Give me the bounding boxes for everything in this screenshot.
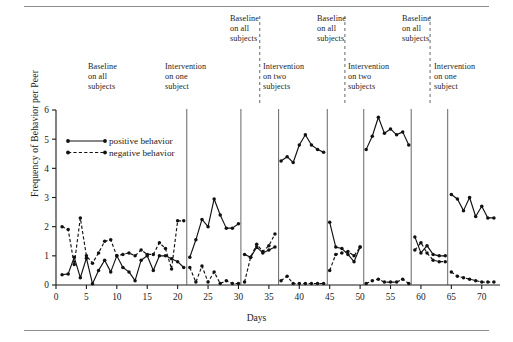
data-point (103, 240, 107, 244)
legend-label: positive behavior (109, 136, 173, 146)
x-tick-label: 55 (386, 292, 396, 302)
data-point (121, 253, 125, 257)
data-point (127, 270, 131, 274)
data-point (158, 254, 162, 257)
data-point (407, 143, 411, 147)
legend-marker (66, 139, 70, 143)
data-point (97, 269, 101, 273)
data-point (425, 244, 429, 248)
data-point (206, 225, 210, 229)
data-point (395, 280, 399, 284)
data-point (212, 270, 216, 274)
data-point (425, 251, 429, 255)
legend-marker (103, 139, 107, 143)
data-point (176, 219, 180, 223)
data-point (407, 282, 411, 286)
data-point (358, 245, 362, 249)
data-point (164, 247, 168, 251)
data-point (304, 133, 308, 137)
data-point (431, 253, 435, 257)
data-point (139, 248, 143, 252)
data-point (298, 282, 302, 286)
data-point (200, 264, 204, 268)
data-point (444, 260, 448, 264)
data-point (401, 130, 405, 134)
data-point (285, 275, 289, 279)
data-point (377, 277, 381, 281)
data-point (468, 196, 472, 200)
data-point (310, 282, 314, 286)
data-point (79, 216, 83, 220)
data-point (133, 279, 137, 283)
data-point (109, 238, 113, 242)
x-tick-label: 65 (447, 292, 457, 302)
data-point (352, 254, 356, 257)
data-point (218, 213, 222, 217)
legend-marker (103, 151, 107, 155)
data-point (237, 282, 241, 286)
data-point (298, 143, 302, 147)
data-point (383, 132, 387, 136)
data-point (304, 282, 308, 286)
data-point (182, 219, 186, 223)
data-point (468, 277, 472, 281)
data-point (66, 228, 70, 232)
data-point (91, 282, 95, 286)
data-point (474, 215, 478, 219)
data-point (413, 248, 417, 252)
data-point (291, 161, 295, 165)
data-point (194, 238, 198, 242)
data-point (176, 260, 180, 264)
data-point (462, 276, 466, 280)
data-point (261, 250, 265, 254)
data-point (371, 279, 375, 283)
data-point (334, 253, 338, 257)
y-tick-label: 4 (44, 164, 49, 174)
data-point (170, 267, 174, 271)
y-tick-label: 3 (44, 193, 49, 203)
data-point (91, 261, 95, 265)
x-tick-label: 0 (54, 292, 59, 302)
data-point (364, 282, 368, 286)
data-point (109, 270, 113, 274)
data-point (231, 226, 235, 230)
data-point (352, 260, 356, 264)
data-point (249, 256, 253, 260)
legend-marker (66, 151, 70, 155)
data-point (371, 135, 375, 139)
data-point (72, 263, 76, 267)
x-tick-label: 25 (203, 292, 213, 302)
data-point (279, 159, 283, 163)
data-point (310, 143, 314, 147)
series-segment-line (62, 218, 184, 269)
data-point (346, 250, 350, 254)
x-tick-label: 20 (173, 292, 183, 302)
data-point (322, 282, 326, 286)
data-point (285, 155, 289, 159)
series-segment-line (62, 256, 184, 284)
data-point (267, 248, 271, 252)
data-point (291, 282, 295, 286)
data-point (492, 216, 496, 220)
data-point (413, 235, 417, 239)
data-point (103, 258, 107, 262)
legend-label: negative behavior (109, 148, 175, 158)
data-point (419, 251, 423, 255)
y-tick-label: 6 (44, 105, 49, 115)
x-tick-label: 70 (477, 292, 487, 302)
data-point (328, 221, 332, 225)
data-point (474, 279, 478, 283)
data-point (419, 241, 423, 245)
data-point (243, 280, 247, 284)
data-point (364, 148, 368, 152)
chart-legend: positive behaviornegative behavior (66, 136, 174, 158)
data-point (273, 232, 277, 236)
data-point (182, 266, 186, 270)
data-point (231, 282, 235, 286)
data-point (456, 275, 460, 279)
data-point (450, 270, 454, 274)
x-tick-label: 35 (264, 292, 274, 302)
data-point (115, 254, 119, 257)
data-point (456, 197, 460, 201)
data-point (212, 197, 216, 201)
